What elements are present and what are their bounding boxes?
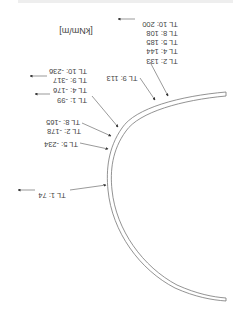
label-neg-tl8: TL 8: -165 xyxy=(46,118,80,127)
label-pos-tl8: TL 8: 108 xyxy=(146,29,177,38)
label-pos-tl1: TL 1: 74 xyxy=(38,191,65,200)
tunnel-lining-moment-diagram: [kNm/m] TL 10: 200 TL 8: 108 TL 5: 185 T… xyxy=(0,0,238,310)
label-pos-tl5: TL 5: 185 xyxy=(146,38,177,47)
leader-neg-group-1 xyxy=(92,96,118,127)
lining-inner-edge xyxy=(111,96,226,298)
leader-tl5-neg xyxy=(80,143,108,149)
lining-outer-edge xyxy=(107,92,226,301)
label-pos-tl4: TL 4: 144 xyxy=(146,47,177,56)
label-pos-tl9: TL 9: 113 xyxy=(107,74,138,83)
label-neg-tl4: TL 4: -176 xyxy=(53,86,87,95)
cropped-caption-edge xyxy=(18,0,233,3)
label-neg-tl10: TL 10: -236 xyxy=(49,67,87,76)
leader-tl2-neg xyxy=(82,123,111,136)
leader-tl9-pos xyxy=(140,78,155,100)
label-neg-tl5: TL 5: -234 xyxy=(44,140,78,149)
leader-tl1-pos xyxy=(70,185,106,190)
label-pos-tl10: TL 10: 200 xyxy=(142,20,178,29)
label-neg-tl9: TL 9: -317 xyxy=(53,76,87,85)
leader-lines xyxy=(18,19,168,190)
label-neg-tl2: TL 2: -178 xyxy=(47,127,81,136)
leader-pos-group xyxy=(150,62,168,96)
label-neg-tl1: TL 1: -99 xyxy=(57,96,87,105)
moment-labels: TL 10: 200 TL 8: 108 TL 5: 185 TL 4: 144… xyxy=(38,20,177,200)
unit-label: [kNm/m] xyxy=(59,26,93,36)
label-pos-tl2: TL 2: 133 xyxy=(146,57,177,66)
